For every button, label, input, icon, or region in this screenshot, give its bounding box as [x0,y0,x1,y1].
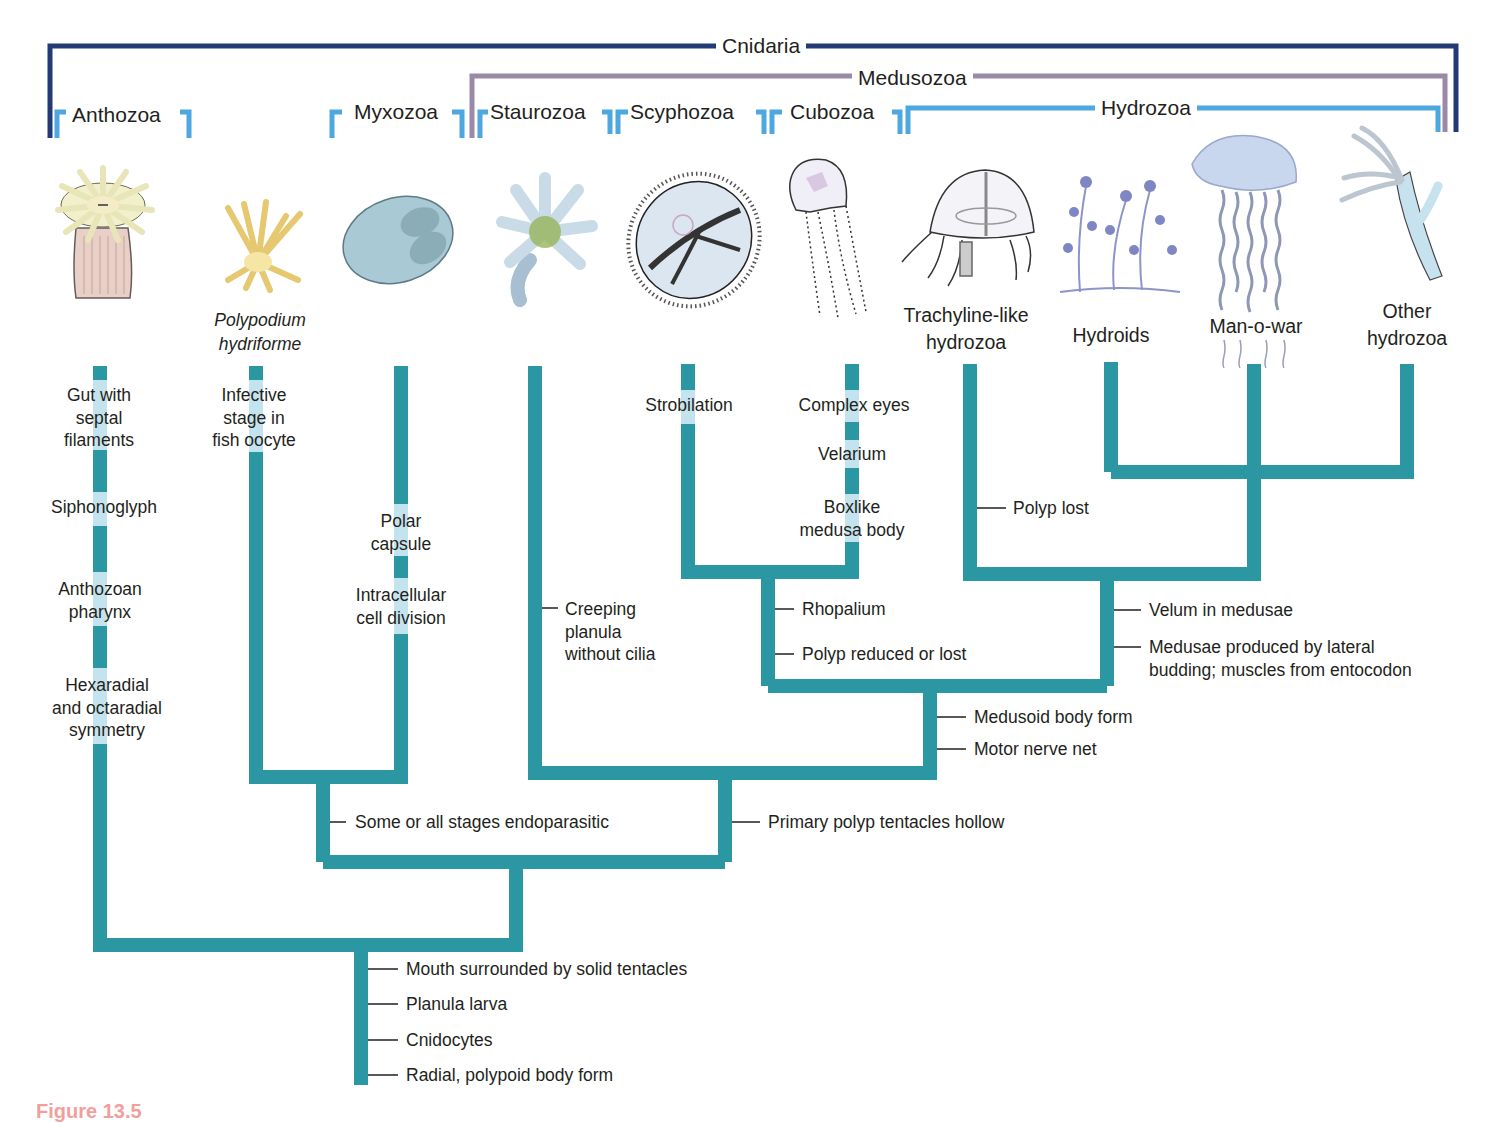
polypodium-icon [228,202,300,290]
taxon-man-o-war: Man-o-war [1209,313,1302,340]
character-bands [93,380,859,744]
taxon-polypodium: Polypodium hydriforme [214,308,305,356]
taxon-trachyline-hydrozoa: Trachyline-like hydrozoa [904,302,1029,356]
sea-anemone-icon [58,168,152,298]
character-hollow-tentacles: Primary polyp tentacles hollow [768,811,1004,834]
character-cnidocytes: Cnidocytes [406,1029,493,1052]
branch-lines [100,362,1407,1085]
taxon-hydroids: Hydroids [1073,322,1150,349]
hydroid-colony-icon [1060,176,1180,292]
figure-caption: Figure 13.5 [36,1100,142,1123]
staurozoa-label: Staurozoa [488,100,588,124]
cnidaria-bracket [50,46,1456,138]
character-rhopalium: Rhopalium [802,598,886,621]
box-jellyfish-icon [790,159,866,318]
character-anthozoan-pharynx: Anthozoan pharynx [58,578,142,623]
class-brackets [57,108,1438,138]
scyphozoa-label: Scyphozoa [628,100,736,124]
character-hexaradial-symmetry: Hexaradial and octaradial symmetry [52,674,162,742]
character-motor-nerve-net: Motor nerve net [974,738,1097,761]
character-lateral-budding: Medusae produced by lateral budding; mus… [1149,636,1412,681]
character-polyp-reduced: Polyp reduced or lost [802,643,966,666]
character-radial-polypoid: Radial, polypoid body form [406,1064,613,1087]
character-boxlike-medusa: Boxlike medusa body [799,496,904,541]
character-infective-stage: Infective stage in fish oocyte [212,384,296,452]
character-planula-larva: Planula larva [406,993,507,1016]
cubozoa-label: Cubozoa [788,100,876,124]
hydra-polyp-icon [1342,128,1442,280]
character-polar-capsule: Polar capsule [371,510,431,555]
character-medusoid-body: Medusoid body form [974,706,1133,729]
anthozoa-label: Anthozoa [66,103,167,127]
hydrozoa-label: Hydrozoa [1095,96,1197,120]
character-gut-septal-filaments: Gut with septal filaments [64,384,134,452]
character-strobilation: Strobilation [645,394,733,417]
character-creeping-planula: Creeping planula without cilia [565,598,655,666]
character-polyp-lost: Polyp lost [1013,497,1089,520]
character-intracellular-division: Intracellular cell division [356,584,446,629]
stauromedusa-icon [502,178,592,300]
cnidaria-label: Cnidaria [716,34,806,58]
taxon-other-hydrozoa: Other hydrozoa [1367,298,1447,352]
character-complex-eyes: Complex eyes [799,394,910,417]
myxozoa-label: Myxozoa [348,100,444,124]
character-velum: Velum in medusae [1149,599,1293,622]
character-ticks [330,508,1141,1075]
character-endoparasitic: Some or all stages endoparasitic [355,811,609,834]
character-velarium: Velarium [818,443,886,466]
myxozoan-spore-icon [332,183,464,297]
character-siphonoglyph: Siphonoglyph [51,496,157,519]
medusozoa-label: Medusozoa [852,66,973,90]
trachyline-medusa-icon [902,170,1034,286]
scyphozoan-jellyfish-icon [601,147,786,333]
character-mouth-solid-tentacles: Mouth surrounded by solid tentacles [406,958,687,981]
